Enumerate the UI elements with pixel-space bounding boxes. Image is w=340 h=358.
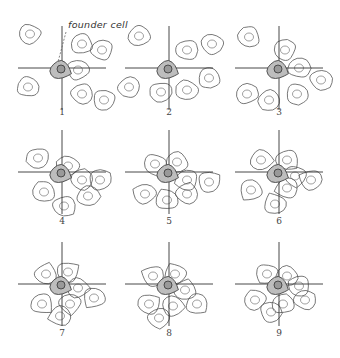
founder-cell-annotation: founder cell <box>58 19 128 62</box>
panel-label: 6 <box>276 216 282 226</box>
cell <box>176 41 198 60</box>
panel-label: 4 <box>59 216 65 226</box>
cell <box>94 91 115 111</box>
cell <box>288 276 308 296</box>
cell <box>287 84 308 105</box>
cell <box>19 24 41 44</box>
cell <box>33 182 55 201</box>
cell <box>67 61 89 80</box>
founder-cell <box>157 164 179 182</box>
founder-cell <box>267 164 289 182</box>
panel-label: 8 <box>166 328 172 338</box>
panel-4: 4 <box>18 130 111 226</box>
cell <box>175 182 197 204</box>
panel-label: 2 <box>166 107 172 117</box>
cell <box>176 80 199 100</box>
founder-cell-diagram: 123456789founder cell <box>0 0 340 358</box>
founder-cell <box>267 60 289 78</box>
panel-label: 9 <box>276 328 282 338</box>
cell <box>85 288 106 307</box>
cell <box>156 189 178 208</box>
panel-3: 3 <box>235 26 333 117</box>
cell <box>31 294 52 313</box>
cell <box>77 186 101 206</box>
founder-cell <box>50 60 72 78</box>
cell <box>293 290 315 309</box>
cell <box>17 77 39 96</box>
cell <box>299 171 322 191</box>
cell <box>71 84 93 104</box>
panel-2: 2 <box>118 25 224 117</box>
cell <box>310 70 333 90</box>
founder-cell <box>50 276 72 294</box>
founder-cell <box>157 276 179 294</box>
cell <box>199 68 220 88</box>
cell <box>90 40 112 60</box>
cell <box>133 184 157 204</box>
panel-6: 6 <box>235 130 323 226</box>
cell <box>274 40 295 61</box>
cell <box>138 295 160 314</box>
cell <box>128 25 151 45</box>
panel-9: 9 <box>235 242 323 338</box>
founder-cell <box>50 164 72 182</box>
panel-8: 8 <box>125 242 213 338</box>
panel-label: 3 <box>276 107 282 117</box>
panel-label: 5 <box>166 216 172 226</box>
cell <box>26 149 48 168</box>
panel-5: 5 <box>125 130 220 226</box>
cell <box>236 83 258 103</box>
cell <box>186 294 207 314</box>
cell <box>118 77 140 98</box>
cell <box>250 149 274 169</box>
cell <box>241 180 262 200</box>
panel-label: 1 <box>59 107 65 117</box>
panel-1: 1 <box>17 24 115 117</box>
cell <box>53 197 76 216</box>
founder-cell <box>157 60 179 78</box>
cell <box>237 27 259 47</box>
cell <box>245 290 267 310</box>
panel-label: 7 <box>59 328 65 338</box>
cell <box>147 308 169 329</box>
cell <box>71 34 92 53</box>
cell <box>288 58 311 77</box>
panel-7: 7 <box>18 242 106 338</box>
annotation-label: founder cell <box>68 19 128 30</box>
cell <box>199 172 220 192</box>
founder-cell <box>267 276 289 294</box>
cell <box>201 34 224 54</box>
cell <box>174 170 196 190</box>
